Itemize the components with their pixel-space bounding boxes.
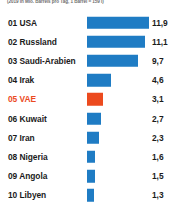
row-label: 06 Kuwait bbox=[8, 114, 47, 124]
row-value: 2,7 bbox=[152, 114, 174, 124]
row-value: 2,3 bbox=[152, 133, 174, 143]
bar bbox=[87, 151, 95, 164]
row-label: 10 Libyen bbox=[8, 190, 46, 200]
bar-track bbox=[87, 151, 149, 164]
chart-row: 04 Irak4,6 bbox=[0, 71, 178, 90]
bar bbox=[87, 16, 149, 29]
row-label: 02 Russland bbox=[8, 37, 57, 47]
chart-row: 10 Libyen1,3 bbox=[0, 186, 178, 205]
bar bbox=[87, 131, 99, 144]
bar-track bbox=[87, 93, 149, 106]
bar-track bbox=[87, 189, 149, 202]
row-value: 3,1 bbox=[152, 94, 174, 104]
bar bbox=[87, 112, 101, 125]
chart-subtitle: (2019 in Mio. Barrels pro Tag, 1 Barrel … bbox=[7, 0, 177, 5]
row-value: 11,9 bbox=[152, 18, 174, 28]
oil-production-ranking-chart: (2019 in Mio. Barrels pro Tag, 1 Barrel … bbox=[0, 0, 178, 206]
bar-track bbox=[87, 131, 149, 144]
bar bbox=[87, 36, 145, 49]
row-label: 01 USA bbox=[8, 18, 37, 28]
row-label: 03 Saudi-Arabien bbox=[8, 56, 76, 66]
row-label: 04 Irak bbox=[8, 75, 34, 85]
chart-row: 03 Saudi-Arabien9,7 bbox=[0, 51, 178, 70]
ranking-list: 01 USA11,902 Russland11,103 Saudi-Arabie… bbox=[0, 13, 178, 205]
bar-track bbox=[87, 55, 149, 68]
bar-track bbox=[87, 74, 149, 87]
bar bbox=[87, 189, 94, 202]
row-value: 9,7 bbox=[152, 56, 174, 66]
row-value: 11,1 bbox=[152, 37, 174, 47]
row-value: 1,3 bbox=[152, 190, 174, 200]
chart-row: 08 Nigeria1,6 bbox=[0, 147, 178, 166]
chart-row: 07 Iran2,3 bbox=[0, 128, 178, 147]
chart-row: 02 Russland11,1 bbox=[0, 32, 178, 51]
bar-track bbox=[87, 36, 149, 49]
bar-track bbox=[87, 16, 149, 29]
row-value: 1,5 bbox=[152, 171, 174, 181]
bar bbox=[87, 74, 111, 87]
row-label: 07 Iran bbox=[8, 133, 35, 143]
row-label: 08 Nigeria bbox=[8, 152, 48, 162]
chart-row: 06 Kuwait2,7 bbox=[0, 109, 178, 128]
bar-track bbox=[87, 170, 149, 183]
bar bbox=[87, 93, 103, 106]
row-label: 05 VAE bbox=[8, 94, 36, 104]
row-value: 4,6 bbox=[152, 75, 174, 85]
chart-row: 05 VAE3,1 bbox=[0, 90, 178, 109]
chart-row: 09 Angola1,5 bbox=[0, 167, 178, 186]
row-value: 1,6 bbox=[152, 152, 174, 162]
bar bbox=[87, 170, 95, 183]
bar-track bbox=[87, 112, 149, 125]
chart-row: 01 USA11,9 bbox=[0, 13, 178, 32]
bar bbox=[87, 55, 138, 68]
row-label: 09 Angola bbox=[8, 171, 47, 181]
